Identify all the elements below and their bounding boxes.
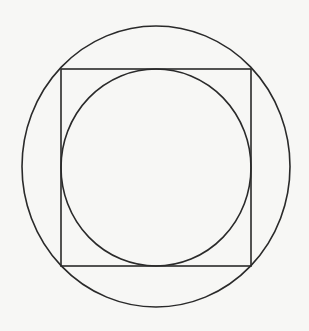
- inner-circle: [61, 69, 251, 266]
- outer-circle: [22, 26, 290, 307]
- diagram-canvas: [0, 0, 309, 331]
- geometry-diagram: [0, 0, 309, 331]
- inscribed-square: [61, 69, 251, 266]
